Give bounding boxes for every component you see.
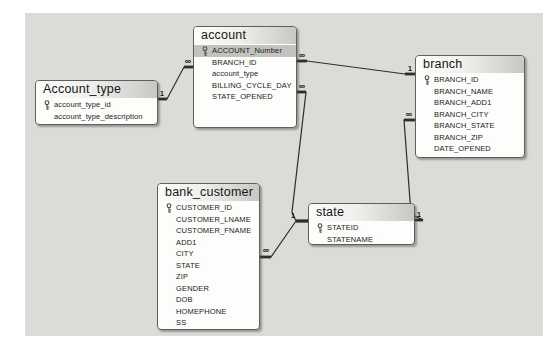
field-row-BRANCH_ID[interactable]: BRANCH_ID [416, 74, 524, 86]
field-row-account_type[interactable]: account_type [194, 68, 296, 80]
key-icon-spacer [421, 132, 432, 142]
table-title-Account_type[interactable]: Account_type [36, 81, 157, 98]
primary-key-icon [41, 100, 52, 110]
key-icon-spacer [314, 234, 325, 244]
field-row-account_type_description[interactable]: account_type_description [36, 111, 157, 123]
table-title-state[interactable]: state [309, 204, 414, 221]
cardinality-label-1: 1 [160, 90, 164, 97]
field-row-ZIP[interactable]: ZIP [158, 271, 259, 283]
field-name: ZIP [176, 272, 188, 281]
key-icon-spacer [163, 272, 174, 282]
primary-key-icon [314, 223, 325, 233]
table-bank_customer[interactable]: bank_customer CUSTOMER_IDCUSTOMER_LNAMEC… [157, 183, 260, 330]
field-row-BRANCH_CITY[interactable]: BRANCH_CITY [416, 109, 524, 121]
field-name: BRANCH_STATE [434, 121, 495, 130]
field-name: BRANCH_NAME [434, 87, 493, 96]
key-icon-spacer [163, 260, 174, 270]
field-row-HOMEPHONE[interactable]: HOMEPHONE [158, 306, 259, 318]
table-account[interactable]: account ACCOUNT_NumberBRANCH_IDaccount_t… [193, 26, 297, 128]
key-icon-spacer [163, 237, 174, 247]
field-row-ADD1[interactable]: ADD1 [158, 237, 259, 249]
key-icon-spacer [421, 98, 432, 108]
field-row-BRANCH_ID[interactable]: BRANCH_ID [194, 57, 296, 69]
field-name: STATE [176, 261, 200, 270]
field-row-BRANCH_NAME[interactable]: BRANCH_NAME [416, 86, 524, 98]
table-title-account[interactable]: account [194, 27, 296, 44]
cardinality-label-∞: ∞ [299, 50, 306, 60]
field-name: STATE_OPENED [212, 92, 273, 101]
key-icon-spacer [163, 306, 174, 316]
field-name: GENDER [176, 284, 209, 293]
field-name: ACCOUNT_Number [212, 46, 282, 55]
key-icon-spacer [163, 295, 174, 305]
field-row-STATE_OPENED[interactable]: STATE_OPENED [194, 91, 296, 103]
primary-key-icon [421, 75, 432, 85]
table-fields: CUSTOMER_IDCUSTOMER_LNAMECUSTOMER_FNAMEA… [158, 201, 259, 329]
cardinality-label-∞: ∞ [406, 109, 413, 119]
table-fields: STATEIDSTATENAME [309, 221, 414, 245]
table-fields: ACCOUNT_NumberBRANCH_IDaccount_typeBILLI… [194, 44, 296, 103]
field-name: CITY [176, 249, 194, 258]
field-row-STATEID[interactable]: STATEID [309, 222, 414, 234]
field-name: BRANCH_ADD1 [434, 98, 492, 107]
field-row-STATENAME[interactable]: STATENAME [309, 234, 414, 246]
key-icon-spacer [421, 121, 432, 131]
field-row-DOB[interactable]: DOB [158, 294, 259, 306]
field-name: BRANCH_CITY [434, 110, 489, 119]
field-name: ADD1 [176, 238, 197, 247]
field-row-ACCOUNT_Number[interactable]: ACCOUNT_Number [194, 45, 296, 57]
field-row-CITY[interactable]: CITY [158, 248, 259, 260]
key-icon-spacer [163, 249, 174, 259]
key-icon-spacer [163, 318, 174, 328]
key-icon-spacer [421, 86, 432, 96]
primary-key-icon [163, 203, 174, 213]
relationship-line-branch-account[interactable] [297, 61, 415, 74]
field-row-BRANCH_ZIP[interactable]: BRANCH_ZIP [416, 132, 524, 144]
field-row-CUSTOMER_FNAME[interactable]: CUSTOMER_FNAME [158, 225, 259, 237]
field-row-BRANCH_STATE[interactable]: BRANCH_STATE [416, 120, 524, 132]
field-row-DATE_OPENED[interactable]: DATE_OPENED [416, 143, 524, 155]
cardinality-label-∞: ∞ [263, 245, 270, 255]
table-title-bank_customer[interactable]: bank_customer [158, 184, 259, 201]
field-name: account_type_description [54, 112, 143, 121]
diagram-stage: 1∞∞1∞1∞∞1 account ACCOUNT_NumberBRANCH_I… [0, 0, 550, 348]
field-row-STATE[interactable]: STATE [158, 260, 259, 272]
table-title-branch[interactable]: branch [416, 56, 524, 73]
field-name: STATENAME [327, 235, 373, 244]
field-name: BILLING_CYCLE_DAY [212, 81, 292, 90]
key-icon-spacer [199, 80, 210, 90]
table-state[interactable]: state STATEIDSTATENAME [308, 203, 415, 245]
table-fields: account_type_idaccount_type_description [36, 98, 157, 122]
field-row-GENDER[interactable]: GENDER [158, 283, 259, 295]
cardinality-label-∞: ∞ [185, 56, 192, 66]
field-row-CUSTOMER_ID[interactable]: CUSTOMER_ID [158, 202, 259, 214]
field-row-CUSTOMER_LNAME[interactable]: CUSTOMER_LNAME [158, 214, 259, 226]
field-name: CUSTOMER_ID [176, 203, 232, 212]
field-row-BILLING_CYCLE_DAY[interactable]: BILLING_CYCLE_DAY [194, 80, 296, 92]
cardinality-label-1: 1 [408, 65, 412, 72]
field-row-BRANCH_ADD1[interactable]: BRANCH_ADD1 [416, 97, 524, 109]
field-name: account_type [212, 69, 258, 78]
table-fields: BRANCH_IDBRANCH_NAMEBRANCH_ADD1BRANCH_CI… [416, 73, 524, 155]
field-name: CUSTOMER_LNAME [176, 215, 251, 224]
key-icon-spacer [421, 144, 432, 154]
key-icon-spacer [199, 92, 210, 102]
key-icon-spacer [163, 283, 174, 293]
primary-key-icon [199, 46, 210, 56]
field-row-SS[interactable]: SS [158, 317, 259, 329]
field-name: SS [176, 318, 186, 327]
cardinality-label-∞: ∞ [299, 81, 306, 91]
field-name: HOMEPHONE [176, 307, 227, 316]
field-name: BRANCH_ZIP [434, 133, 483, 142]
cardinality-label-1: 1 [291, 212, 295, 219]
table-Account_type[interactable]: Account_type account_type_idaccount_type… [35, 80, 158, 125]
field-name: account_type_id [54, 100, 111, 109]
field-name: DATE_OPENED [434, 144, 491, 153]
key-icon-spacer [421, 109, 432, 119]
key-icon-spacer [163, 226, 174, 236]
key-icon-spacer [199, 57, 210, 67]
table-branch[interactable]: branch BRANCH_IDBRANCH_NAMEBRANCH_ADD1BR… [415, 55, 525, 158]
cardinality-label-1: 1 [417, 211, 421, 218]
field-name: STATEID [327, 223, 359, 232]
field-row-account_type_id[interactable]: account_type_id [36, 99, 157, 111]
